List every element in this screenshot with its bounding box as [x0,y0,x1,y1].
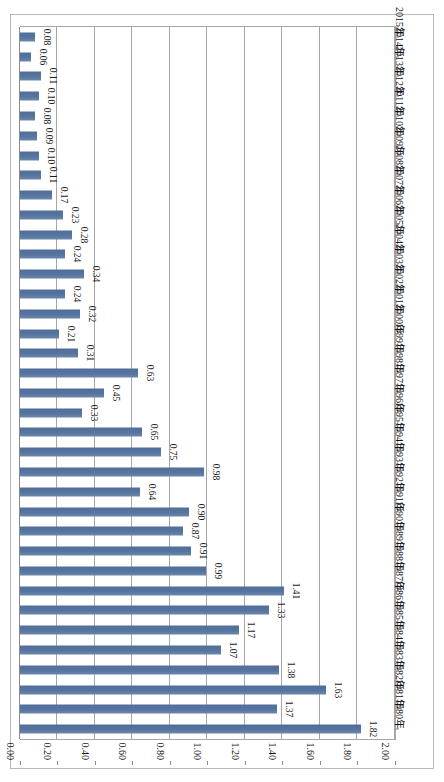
bar-row[interactable]: 0.242004年 [20,245,395,265]
bar-value-label: 1.33 [276,602,286,619]
bar[interactable] [20,448,161,457]
bar[interactable] [20,52,31,61]
bar-row[interactable]: 1.071984年 [20,640,395,660]
bar-row[interactable]: 1.331986年 [20,601,395,621]
bar[interactable] [20,32,35,41]
bar-value-label: 1.41 [291,582,301,599]
bar[interactable] [20,408,82,417]
bar-row[interactable]: 0.311999年 [20,343,395,363]
bar[interactable] [20,428,142,437]
bar[interactable] [20,309,80,318]
bar-row[interactable]: 0.172007年 [20,185,395,205]
bar-value-label: 1.37 [284,701,294,718]
bar[interactable] [20,586,284,595]
bar-row[interactable]: 1.821980年 [20,719,395,739]
bar[interactable] [20,665,279,674]
bar[interactable] [20,210,63,219]
bar[interactable] [20,566,206,575]
bar[interactable] [20,191,52,200]
bar[interactable] [20,112,35,121]
axis-tick [283,761,284,765]
axis-tick-label: 0.40 [80,743,91,761]
bar-row[interactable]: 0.641992年 [20,482,395,502]
bar[interactable] [20,72,41,81]
bar-value-label: 0.32 [87,305,97,322]
bar-value-label: 0.24 [72,246,82,263]
bar-row[interactable]: 0.901991年 [20,502,395,522]
axis-tick [320,761,321,765]
axis-tick-label: 1.00 [192,743,203,761]
bar-row[interactable]: 0.651995年 [20,423,395,443]
bar[interactable] [20,646,221,655]
axis-tick-label: 1.80 [342,743,353,761]
category-tick [395,432,399,433]
bar-row[interactable]: 0.212000年 [20,324,395,344]
bar-row[interactable]: 0.082011年 [20,106,395,126]
bar[interactable] [20,507,189,516]
bar-row[interactable]: 0.342003年 [20,264,395,284]
axis-tick [208,761,209,765]
bar[interactable] [20,329,59,338]
bar-row[interactable]: 0.631998年 [20,363,395,383]
category-label: 2015年 [393,7,408,37]
bar-value-label: 0.99 [213,563,223,580]
bar-row[interactable]: 0.751994年 [20,442,395,462]
bar-row[interactable]: 0.112008年 [20,165,395,185]
bar[interactable] [20,171,41,180]
bar[interactable] [20,527,183,536]
bar[interactable] [20,131,37,140]
bar-value-label: 0.21 [66,325,76,342]
bar-row[interactable]: 1.411987年 [20,581,395,601]
bar[interactable] [20,705,277,714]
axis-tick [395,761,396,765]
category-tick [395,175,399,176]
bar[interactable] [20,349,78,358]
bar[interactable] [20,290,65,299]
bar-row[interactable]: 0.102012年 [20,86,395,106]
category-tick [395,353,399,354]
axis-tick-label: 1.20 [230,743,241,761]
bar-row[interactable]: 0.451997年 [20,383,395,403]
bar-row[interactable]: 0.282005年 [20,225,395,245]
bar-row[interactable]: 0.991988年 [20,561,395,581]
bar-value-label: 0.64 [147,483,157,500]
bar[interactable] [20,92,39,101]
bar[interactable] [20,250,65,259]
bar[interactable] [20,685,326,694]
bar-row[interactable]: 0.242002年 [20,284,395,304]
bar-row[interactable]: 0.981993年 [20,462,395,482]
bar-row[interactable]: 0.112013年 [20,67,395,87]
bar[interactable] [20,547,191,556]
bar[interactable] [20,468,204,477]
category-tick [395,254,399,255]
bar-row[interactable]: 1.171985年 [20,620,395,640]
bar-row[interactable]: 0.322001年 [20,304,395,324]
bar-row[interactable]: 0.911989年 [20,541,395,561]
bar-row[interactable]: 0.331996年 [20,403,395,423]
rotated-chart-canvas: 2.001.801.601.401.201.000.800.600.400.20… [11,15,433,768]
bar[interactable] [20,230,73,239]
bar-row[interactable]: 1.631982年 [20,680,395,700]
axis-tick-label: 2.00 [380,743,391,761]
bar-row[interactable]: 0.092010年 [20,126,395,146]
bar-value-label: 0.90 [196,503,206,520]
bar-row[interactable]: 0.232006年 [20,205,395,225]
bar[interactable] [20,487,140,496]
bar[interactable] [20,270,84,279]
bar[interactable] [20,151,39,160]
bar[interactable] [20,725,361,734]
axis-tick [95,761,96,765]
bar[interactable] [20,369,138,378]
bar-value-label: 0.11 [48,167,58,183]
bar[interactable] [20,606,269,615]
bar-row[interactable]: 1.381983年 [20,660,395,680]
bar-value-label: 1.07 [228,642,238,659]
bar-row[interactable]: 0.871990年 [20,521,395,541]
bar-row[interactable]: 0.062014年 [20,47,395,67]
bar[interactable] [20,626,239,635]
bar-row[interactable]: 1.371981年 [20,699,395,719]
bar-row[interactable]: 0.102009年 [20,146,395,166]
bar[interactable] [20,388,104,397]
bar-row[interactable]: 0.082015年 [20,27,395,47]
bar-value-label: 1.17 [246,622,256,639]
